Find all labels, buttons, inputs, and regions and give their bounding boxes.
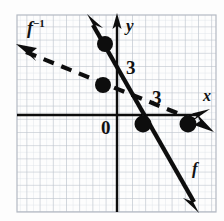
- origin-label: 0: [101, 118, 111, 137]
- x-axis-label: x: [203, 88, 211, 104]
- point-on-f-upper: [97, 36, 113, 52]
- y-axis-label: y: [126, 17, 134, 34]
- curve-label-f-inverse: f−1: [27, 18, 45, 37]
- point-on-f-x-intercept: [135, 116, 152, 133]
- point-on-finv-right: [180, 116, 197, 133]
- point-on-finv-upper: [95, 77, 111, 93]
- x-axis-tick-label-3: 3: [152, 88, 162, 107]
- curve-label-f: f: [192, 160, 198, 177]
- y-axis-tick-label-3: 3: [126, 58, 136, 77]
